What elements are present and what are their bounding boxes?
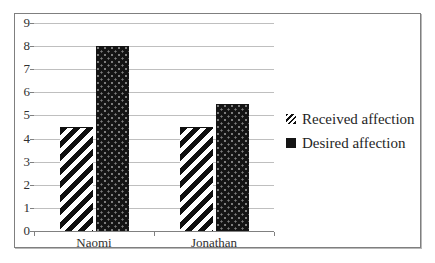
bar-naomi-received — [60, 127, 93, 231]
y-axis-tick-label: 6 — [15, 85, 30, 99]
y-axis-tick-label: 7 — [15, 62, 30, 76]
y-axis-tick-label: 0 — [15, 224, 30, 238]
y-axis-tick — [30, 162, 34, 163]
legend-item-desired-affection: Desired affection — [286, 132, 415, 154]
y-axis-tick — [30, 208, 34, 209]
y-axis-tick — [30, 92, 34, 93]
y-axis-tick-label: 9 — [15, 16, 30, 30]
x-axis-tick — [34, 232, 35, 236]
x-axis-tick — [154, 232, 155, 236]
bar-jonathan-received — [180, 127, 213, 231]
legend-label-received-affection: Received affection — [302, 111, 415, 128]
y-axis-tick — [30, 46, 34, 47]
chart-frame: 0123456789NaomiJonathan Received affecti… — [14, 13, 421, 248]
y-axis-tick — [30, 115, 34, 116]
received-affection-swatch-icon — [286, 114, 296, 124]
gridline — [34, 46, 274, 47]
y-axis-tick — [30, 23, 34, 24]
y-axis-tick-label: 4 — [15, 132, 30, 146]
bar-jonathan-desired — [216, 104, 249, 231]
chart-canvas: 0123456789NaomiJonathan Received affecti… — [0, 0, 435, 263]
x-axis-category-label: Jonathan — [164, 236, 264, 250]
y-axis-tick-label: 5 — [15, 108, 30, 122]
desired-affection-swatch-icon — [286, 138, 296, 148]
y-axis-tick-label: 8 — [15, 39, 30, 53]
gridline — [34, 92, 274, 93]
bar-naomi-desired — [96, 46, 129, 231]
y-axis-tick — [30, 185, 34, 186]
y-axis-tick — [30, 139, 34, 140]
x-axis-tick — [274, 232, 275, 236]
y-axis-tick-label: 2 — [15, 178, 30, 192]
legend-label-desired-affection: Desired affection — [302, 135, 405, 152]
plot-area — [34, 23, 274, 232]
y-axis-tick-label: 3 — [15, 155, 30, 169]
legend: Received affection Desired affection — [286, 108, 415, 156]
y-axis-tick — [30, 69, 34, 70]
gridline — [34, 69, 274, 70]
legend-item-received-affection: Received affection — [286, 108, 415, 130]
x-axis-category-label: Naomi — [44, 236, 144, 250]
gridline — [34, 23, 274, 24]
y-axis-tick-label: 1 — [15, 201, 30, 215]
